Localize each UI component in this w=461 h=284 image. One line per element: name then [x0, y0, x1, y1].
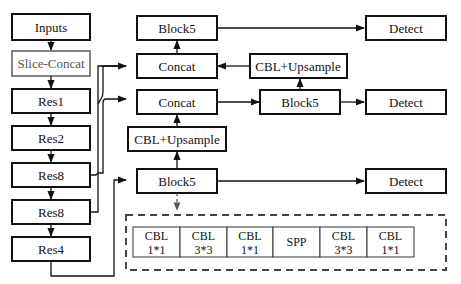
yolo-architecture-diagram: Inputs Slice-Concat Res1 Res2 Res8 Res8 … — [0, 0, 461, 284]
detail-cell-cbl-1x1-c: CBL 1*1 — [367, 227, 414, 257]
detail-cell-cbl-3x3-b: CBL 3*3 — [320, 227, 367, 257]
cell-label: CBL — [379, 229, 402, 243]
backbone-res8-a: Res8 — [12, 163, 90, 187]
cell-label: CBL — [238, 229, 261, 243]
cbl-upsample-right-label: CBL+Upsample — [255, 59, 341, 74]
res4-label: Res4 — [38, 242, 65, 257]
detail-cell-cbl-3x3-a: CBL 3*3 — [180, 227, 227, 257]
cell-label: CBL — [145, 229, 168, 243]
cell-label: SPP — [286, 235, 306, 249]
res2-label: Res2 — [38, 131, 64, 146]
detail-cell-cbl-1x1-b: CBL 1*1 — [227, 227, 273, 257]
cbl-upsample-left-label: CBL+Upsample — [134, 132, 220, 147]
res8-b-label: Res8 — [38, 205, 64, 220]
detect-bottom-label: Detect — [389, 174, 423, 189]
cell-label: CBL — [192, 229, 215, 243]
backbone-res1: Res1 — [12, 89, 90, 113]
backbone-res2: Res2 — [12, 126, 90, 150]
cell-kernel: 1*1 — [148, 243, 166, 257]
head-detect-mid: Detect — [366, 90, 446, 114]
inputs-label: Inputs — [35, 20, 68, 35]
neck-concat-top: Concat — [137, 54, 217, 78]
cell-kernel: 3*3 — [335, 243, 353, 257]
slice-concat-label: Slice-Concat — [17, 56, 85, 71]
detect-top-label: Detect — [389, 21, 423, 36]
backbone-slice-concat: Slice-Concat — [12, 51, 90, 76]
neck-block5-top: Block5 — [137, 16, 217, 40]
neck-concat-mid: Concat — [137, 90, 217, 114]
concat-top-label: Concat — [159, 59, 196, 74]
head-detect-bottom: Detect — [366, 169, 446, 193]
backbone-res4: Res4 — [12, 237, 90, 261]
neck-block5-bottom: Block5 — [137, 169, 217, 193]
block5-detail-row: CBL 1*1 CBL 3*3 CBL 1*1 SPP CBL 3*3 CBL … — [133, 227, 414, 257]
res8-a-label: Res8 — [38, 168, 64, 183]
backbone-res8-b: Res8 — [12, 200, 90, 224]
neck-cbl-upsample-right: CBL+Upsample — [250, 54, 347, 78]
backbone-inputs: Inputs — [12, 14, 90, 40]
detect-mid-label: Detect — [389, 95, 423, 110]
neck-block5-mid: Block5 — [260, 90, 340, 114]
cell-kernel: 1*1 — [382, 243, 400, 257]
block5-mid-label: Block5 — [281, 95, 319, 110]
detail-cell-cbl-1x1-a: CBL 1*1 — [133, 227, 180, 257]
neck-cbl-upsample-left: CBL+Upsample — [128, 127, 226, 151]
block5-bottom-label: Block5 — [158, 174, 196, 189]
concat-mid-label: Concat — [159, 95, 196, 110]
detail-cell-spp: SPP — [273, 227, 320, 257]
head-detect-top: Detect — [366, 16, 446, 40]
cell-label: CBL — [332, 229, 355, 243]
res1-label: Res1 — [38, 94, 64, 109]
block5-top-label: Block5 — [158, 21, 196, 36]
cell-kernel: 1*1 — [241, 243, 259, 257]
cell-kernel: 3*3 — [195, 243, 213, 257]
